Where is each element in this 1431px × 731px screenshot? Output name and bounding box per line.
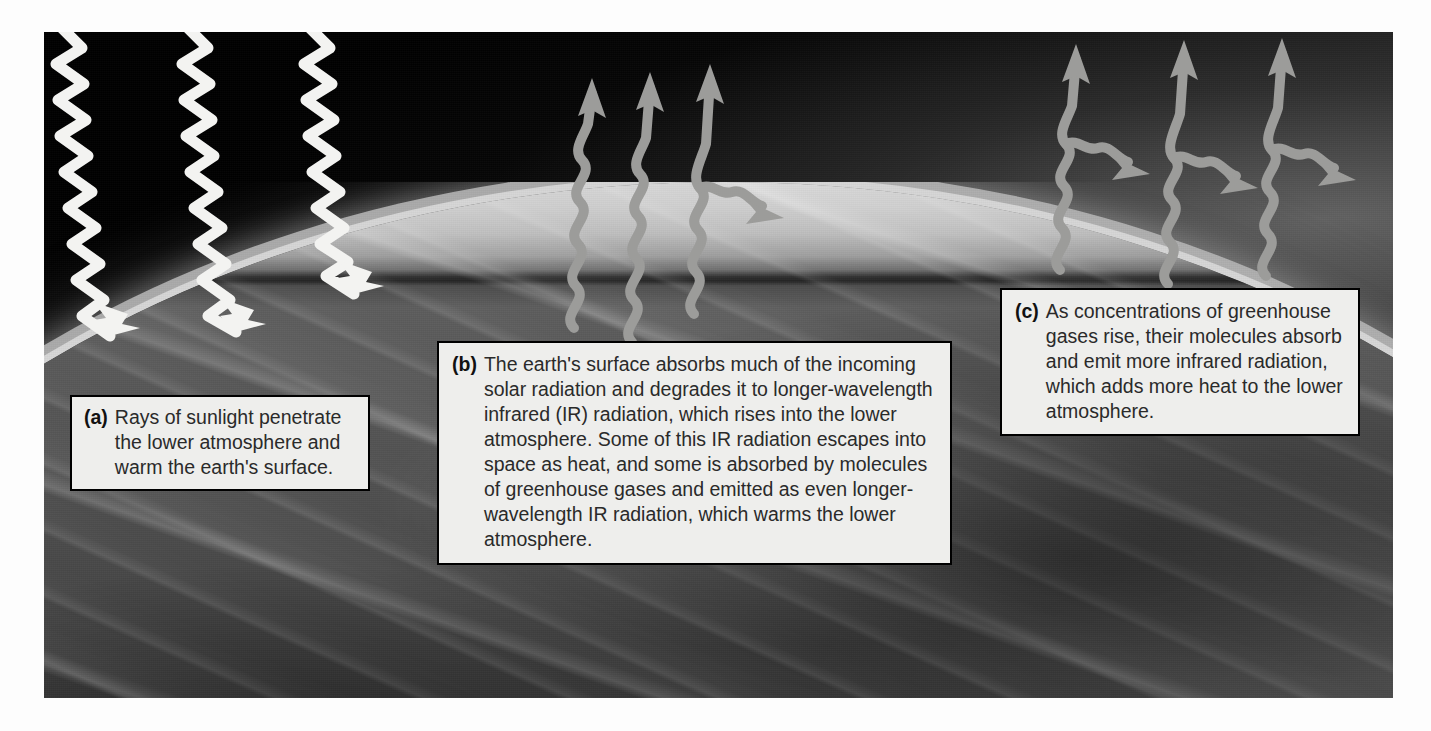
caption-a-tag: (a) bbox=[84, 405, 108, 430]
reemitted-infrared-arrow bbox=[700, 186, 762, 206]
figure-page: (a) Rays of sunlight penetrate the lower… bbox=[0, 0, 1431, 731]
caption-b-text: The earth's surface absorbs much of the … bbox=[484, 352, 940, 552]
escaping-infrared-arrow bbox=[1056, 60, 1076, 270]
escaping-infrared-arrow bbox=[1262, 54, 1282, 276]
greenhouse-reemission-arrowheads bbox=[1062, 38, 1356, 194]
incoming-solar-radiation-arrow bbox=[182, 32, 236, 332]
caption-a-text: Rays of sunlight penetrate the lower atm… bbox=[115, 405, 358, 480]
reemitted-infrared-arrow bbox=[1066, 142, 1128, 162]
reemitted-infrared-arrow bbox=[1272, 148, 1334, 168]
escaping-infrared-arrow bbox=[690, 80, 710, 314]
incoming-solar-radiation-arrow bbox=[56, 32, 110, 336]
caption-c-text: As concentrations of greenhouse gases ri… bbox=[1046, 299, 1348, 424]
incoming-solar-radiation-group bbox=[56, 32, 354, 336]
escaping-infrared-group bbox=[570, 80, 762, 342]
escaping-infrared-arrow bbox=[1164, 56, 1184, 284]
escaping-infrared-arrow bbox=[628, 88, 650, 342]
reemitted-infrared-arrow bbox=[1174, 156, 1236, 176]
caption-box-c: (c) As concentrations of greenhouse gase… bbox=[1000, 288, 1360, 436]
incoming-solar-radiation-arrow bbox=[304, 32, 354, 294]
caption-box-a: (a) Rays of sunlight penetrate the lower… bbox=[70, 395, 370, 491]
caption-box-b: (b) The earth's surface absorbs much of … bbox=[437, 341, 952, 565]
escaping-infrared-arrow bbox=[570, 94, 592, 328]
caption-b-tag: (b) bbox=[452, 352, 477, 377]
greenhouse-reemission-group bbox=[1056, 54, 1334, 284]
caption-c-tag: (c) bbox=[1015, 299, 1039, 324]
